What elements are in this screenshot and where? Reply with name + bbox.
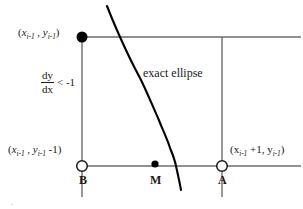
exact-ellipse-caption: exact ellipse <box>143 67 203 79</box>
top-left-vertex-label: (xi-1 , yi-1) <box>18 27 59 38</box>
top-left-vertex-point <box>77 32 88 43</box>
comma: , <box>35 26 43 38</box>
y-offset: -1 <box>46 143 58 155</box>
point-b-marker <box>77 161 88 172</box>
slope-relation: < -1 <box>57 77 75 88</box>
exact-ellipse-curve <box>107 6 181 190</box>
scan-artifact-mark: . <box>11 198 13 207</box>
slope-denominator: dx <box>41 82 54 95</box>
ellipse-midpoint-diagram: (xi-1 , yi-1) (xi-1 , yi-1 -1) (xi-1 +1,… <box>0 0 303 209</box>
point-a-marker <box>217 161 228 172</box>
x-subscript: i-1 <box>27 32 35 41</box>
paren-close: ) <box>58 143 62 155</box>
slope-numerator: dy <box>41 70 54 82</box>
point-m-label: M <box>150 174 161 186</box>
point-a-label: A <box>218 174 227 186</box>
x-offset: +1, <box>247 143 267 155</box>
y-subscript: i-1 <box>48 32 56 41</box>
slope-fraction: dy dx <box>41 70 54 95</box>
comma: , <box>25 143 33 155</box>
x-variable: x <box>22 26 27 38</box>
point-m-marker <box>151 160 158 167</box>
paren-close: ) <box>56 26 60 38</box>
x-variable: x <box>12 143 17 155</box>
x-subscript: i-1 <box>17 149 25 158</box>
x-subscript: i-1 <box>239 149 247 158</box>
bottom-right-vertex-label: (xi-1 +1, yi-1) <box>230 144 284 155</box>
y-variable: y <box>267 143 273 155</box>
point-b-label: B <box>79 174 87 186</box>
y-subscript: i-1 <box>38 149 46 158</box>
bottom-left-vertex-label: (xi-1 , yi-1 -1) <box>8 144 61 155</box>
slope-condition-label: dy dx < -1 <box>41 70 75 95</box>
y-subscript: i-1 <box>273 149 281 158</box>
paren-close: ) <box>281 143 285 155</box>
